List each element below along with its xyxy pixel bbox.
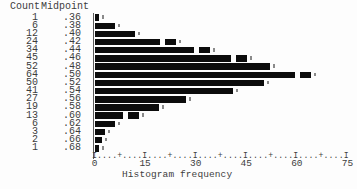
histogram-output-panel: Count Midpoint 1.366.3812.4024.4234.4445… — [0, 0, 357, 189]
histogram-row: 52.48 — [0, 63, 357, 71]
x-tick-label: 30 — [190, 159, 201, 169]
histogram-bar — [95, 31, 135, 37]
histogram-row: 64.50 — [0, 71, 357, 79]
histogram-row: 24.42 — [0, 38, 357, 46]
midpoint-column-header: Midpoint — [41, 2, 89, 12]
x-axis-line: I....+....I....+....I....+....I....+....… — [92, 152, 349, 160]
histogram-bar — [95, 121, 115, 127]
histogram-bar — [95, 112, 139, 118]
histogram-row: 3.64 — [0, 128, 357, 136]
histogram-row: 41.54 — [0, 87, 357, 95]
histogram-bar — [95, 14, 99, 20]
histogram-row: 1.36 — [0, 14, 357, 22]
x-tick-label: 15 — [139, 159, 150, 169]
histogram-bar — [95, 104, 159, 110]
histogram-bar — [95, 39, 176, 45]
histogram-row: 13.60 — [0, 112, 357, 120]
x-axis-label: Histogram frequency — [122, 170, 232, 180]
histogram-bar — [95, 47, 210, 53]
histogram-bar — [95, 129, 105, 135]
count-column-header: Count — [10, 2, 40, 12]
histogram-row: 6.62 — [0, 120, 357, 128]
midpoint-value: .68 — [38, 144, 81, 152]
histogram-bar — [95, 23, 115, 29]
x-tick-label: 60 — [291, 159, 302, 169]
histogram-bar — [95, 63, 270, 69]
histogram-row: 45.46 — [0, 54, 357, 62]
histogram-row: 50.52 — [0, 79, 357, 87]
histogram-bar — [95, 88, 233, 94]
histogram-bar — [95, 137, 102, 143]
histogram-bar — [95, 96, 186, 102]
histogram-row: 34.44 — [0, 46, 357, 54]
histogram-row: 12.40 — [0, 30, 357, 38]
histogram-bar — [95, 80, 264, 86]
histogram-bar — [95, 72, 311, 78]
histogram-rows: 1.366.3812.4024.4234.4445.4652.4864.5050… — [0, 14, 357, 153]
count-value: 1 — [0, 144, 38, 152]
histogram-row: 2.66 — [0, 136, 357, 144]
histogram-row: 27.56 — [0, 95, 357, 103]
histogram-bar — [95, 55, 247, 61]
x-tick-label: 75 — [342, 159, 353, 169]
histogram-row: 19.58 — [0, 103, 357, 111]
histogram-row: 6.38 — [0, 22, 357, 30]
y-axis-zero-line — [93, 13, 94, 159]
x-tick-label: 0 — [92, 159, 98, 169]
x-tick-label: 45 — [241, 159, 252, 169]
